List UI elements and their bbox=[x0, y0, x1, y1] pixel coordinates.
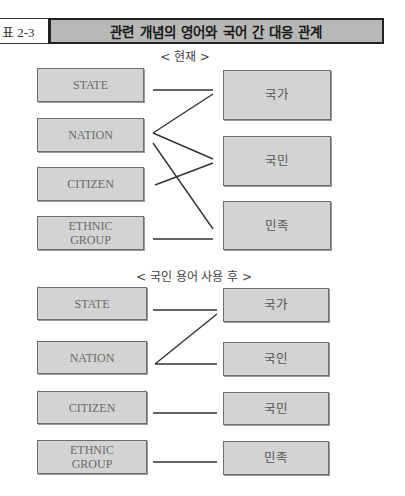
table-title: 관련 개념의 영어와 국어 간 대응 관계 bbox=[48, 18, 384, 44]
after-left-state: STATE bbox=[37, 287, 147, 320]
line-nation-gukmin bbox=[153, 133, 213, 159]
current-left-ethnic-group: ETHNIC GROUP bbox=[37, 216, 144, 250]
after-right-gukga: 국가 bbox=[223, 288, 329, 322]
current-right-gukmin: 국민 bbox=[223, 136, 331, 186]
current-right-gukga: 국가 bbox=[223, 70, 331, 120]
after-left-nation: NATION bbox=[37, 341, 147, 374]
table-number-label: 표 2-3 bbox=[0, 18, 48, 44]
line-nation-gukga bbox=[153, 94, 213, 133]
current-left-citizen: CITIZEN bbox=[37, 167, 144, 201]
after-right-gukmin: 국민 bbox=[223, 392, 329, 425]
after-right-minjok: 민족 bbox=[223, 441, 329, 475]
current-left-nation: NATION bbox=[37, 118, 144, 152]
after-right-gugin: 국인 bbox=[223, 342, 329, 376]
line-citizen-gukmin bbox=[155, 163, 213, 185]
after-left-citizen: CITIZEN bbox=[37, 391, 147, 424]
after-left-ethnic-group: ETHNIC GROUP bbox=[37, 440, 147, 474]
line-nation-minjok bbox=[153, 143, 213, 229]
current-left-state: STATE bbox=[37, 68, 144, 102]
line-after-nation-gukga bbox=[155, 314, 217, 364]
section-after-subtitle: < 국인 용어 사용 후 > bbox=[136, 267, 252, 284]
table-header: 표 2-3 관련 개념의 영어와 국어 간 대응 관계 bbox=[0, 18, 384, 44]
current-right-minjok: 민족 bbox=[223, 201, 331, 250]
section-current-subtitle: < 현재 > bbox=[160, 47, 210, 64]
